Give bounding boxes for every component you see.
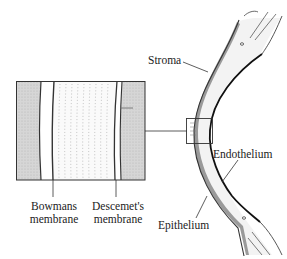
stroma-leader — [183, 62, 208, 72]
label-bowmans-line1: Bowmans — [25, 200, 83, 213]
endothelium-leader — [222, 160, 238, 182]
label-bowmans-membrane: Bowmans membrane — [25, 200, 83, 226]
inset-epithelium-band — [17, 81, 41, 180]
label-epithelium: Epithelium — [158, 219, 209, 232]
inset-endothelium-band — [120, 81, 145, 180]
label-descemets-membrane: Descemet's membrane — [88, 200, 148, 226]
label-endothelium: Endothelium — [213, 148, 272, 161]
epithelium-leader — [196, 196, 207, 218]
enlarged-inset — [17, 81, 146, 180]
label-stroma: Stroma — [148, 54, 181, 67]
label-descemets-line1: Descemet's — [88, 200, 148, 213]
inset-stroma — [52, 81, 117, 180]
label-bowmans-line2: membrane — [25, 213, 83, 226]
label-descemets-line2: membrane — [88, 213, 148, 226]
